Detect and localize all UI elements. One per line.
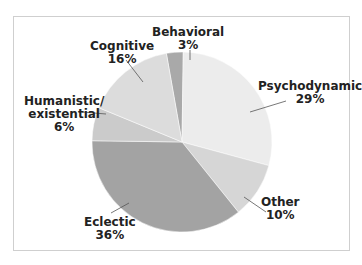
label-cognitive-pct: 16%: [90, 53, 154, 66]
label-behavioral-pct: 3%: [152, 39, 224, 52]
label-behavioral: Behavioral 3%: [152, 26, 224, 52]
label-humanistic: Humanistic/ existential 6%: [24, 95, 104, 134]
label-eclectic: Eclectic 36%: [84, 216, 136, 242]
label-other: Other 10%: [261, 196, 300, 222]
label-eclectic-pct: 36%: [84, 229, 136, 242]
label-other-pct: 10%: [261, 209, 300, 222]
label-humanistic-pct: 6%: [24, 121, 104, 134]
label-psychodynamic: Psychodynamic 29%: [258, 80, 362, 106]
label-cognitive: Cognitive 16%: [90, 40, 154, 66]
label-psychodynamic-pct: 29%: [258, 93, 362, 106]
